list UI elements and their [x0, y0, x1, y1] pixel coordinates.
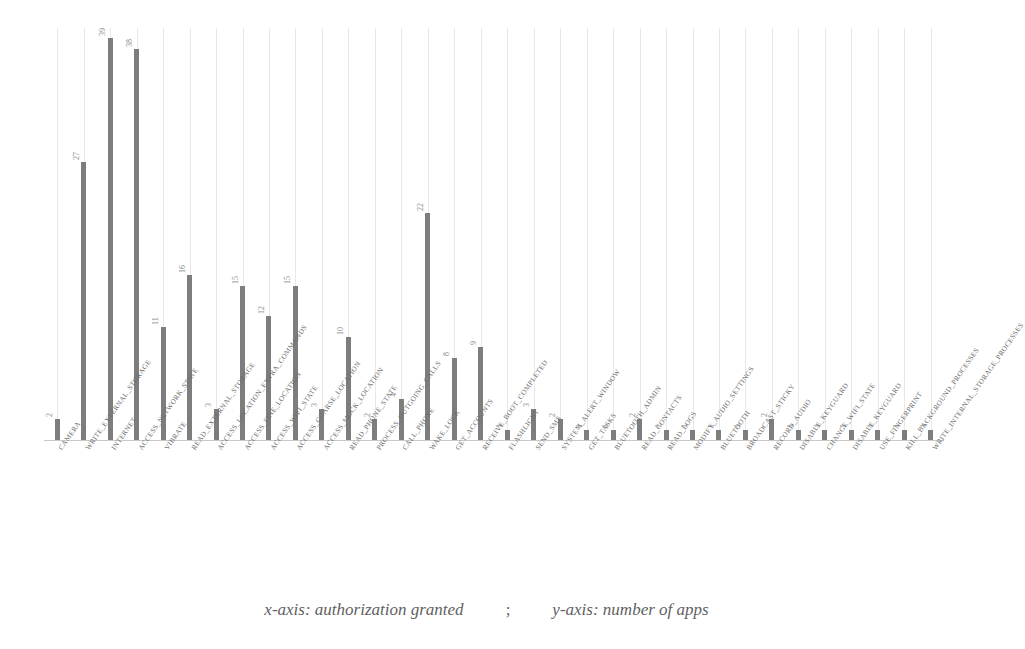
x-tick-slot: RECORD_AUDIO: [759, 443, 785, 593]
bar[interactable]: [690, 430, 695, 440]
bar[interactable]: [796, 430, 801, 440]
bar[interactable]: [81, 162, 86, 440]
bar-slot[interactable]: 2: [626, 28, 652, 440]
bar[interactable]: [452, 358, 457, 440]
caption-separator: ;: [464, 600, 553, 620]
bar-slot[interactable]: 1: [891, 28, 917, 440]
x-tick-slot: CAMERA: [44, 443, 70, 593]
x-tick-slot: GET_TASKS: [573, 443, 599, 593]
x-tick-slot: READ_PHONE_STATE: [335, 443, 361, 593]
bar[interactable]: [902, 430, 907, 440]
x-tick-slot: READ_LOGS: [653, 443, 679, 593]
bar-value-label: 39: [99, 28, 107, 36]
x-tick-slot: PROCESS_OUTGOING_CALLS: [362, 443, 388, 593]
caption-y-axis: y-axis: number of apps: [552, 600, 708, 619]
bar[interactable]: [664, 430, 669, 440]
x-tick-slot: WRITE_INTERNAL_STORAGE_PROCESSES: [917, 443, 943, 593]
caption-x-axis: x-axis: authorization granted: [264, 600, 463, 619]
bar[interactable]: [743, 430, 748, 440]
bar-value-label: 27: [73, 152, 81, 160]
x-tick-slot: ACCESS_COARSE_LOCATION: [282, 443, 308, 593]
bar[interactable]: [478, 347, 483, 440]
bar[interactable]: [875, 430, 880, 440]
x-tick-slot: ACCESS_LOCATION_EXTRA_COMMANDS: [203, 443, 229, 593]
bar-slot[interactable]: 39: [97, 28, 123, 440]
bar[interactable]: [822, 430, 827, 440]
bar[interactable]: [584, 430, 589, 440]
bar[interactable]: [928, 430, 933, 440]
bar-slot[interactable]: 1: [865, 28, 891, 440]
x-tick-slot: RECEIVE_BOOT_COMPLETED: [468, 443, 494, 593]
bar-value-label: 22: [417, 203, 425, 211]
x-tick-slot: BLUETOOTH: [706, 443, 732, 593]
x-tick-slot: DISABLE_KEYGUARD: [838, 443, 864, 593]
bar-value-label: 16: [179, 265, 187, 273]
x-tick-slot: READ_EXTERNAL_STORAGE: [176, 443, 202, 593]
x-tick-slot: CHANGE_WIFI_STATE: [812, 443, 838, 593]
bar-series: 2273938111631512153102422891321121111211…: [44, 28, 944, 440]
bar-slot[interactable]: 1: [838, 28, 864, 440]
bar-slot[interactable]: 1: [573, 28, 599, 440]
bar-value-label: 3: [205, 403, 213, 407]
x-tick-slot: VIBRATE: [150, 443, 176, 593]
x-tick-slot: ACCESS_WIFI_STATE: [256, 443, 282, 593]
bar-value-label: 38: [126, 39, 134, 47]
bar-value-label: 10: [337, 327, 345, 335]
bar-value-label: 15: [232, 276, 240, 284]
x-axis-tick-labels: CAMERAWRITE_EXTERNAL_STORAGEINTERNETACCE…: [44, 443, 944, 593]
bar-slot[interactable]: 3: [309, 28, 335, 440]
bar-value-label: 11: [152, 317, 160, 325]
bar-slot[interactable]: 11: [150, 28, 176, 440]
bar[interactable]: [611, 430, 616, 440]
bar-value-label: 3: [311, 403, 319, 407]
bar-slot[interactable]: 2: [759, 28, 785, 440]
bar-slot[interactable]: 1: [706, 28, 732, 440]
x-tick-slot: SEND_SMS: [520, 443, 546, 593]
x-tick-slot: BROADCAST_STICKY: [732, 443, 758, 593]
bar-slot[interactable]: 1: [679, 28, 705, 440]
bar-slot[interactable]: 1: [494, 28, 520, 440]
x-tick-slot: KILL_BACKGROUND_PROCESSES: [891, 443, 917, 593]
x-tick-slot: SYSTEM_ALERT_WINDOW: [547, 443, 573, 593]
bar-value-label: 3: [523, 403, 531, 407]
bar-value-label: 15: [284, 276, 292, 284]
figure-caption: x-axis: authorization granted;y-axis: nu…: [0, 600, 973, 620]
x-tick-slot: FLASHLIGHT: [494, 443, 520, 593]
bar-slot[interactable]: 1: [917, 28, 943, 440]
bar[interactable]: [187, 275, 192, 440]
bar-slot[interactable]: 2: [44, 28, 70, 440]
x-tick-slot: USE_FINGERPRINT: [865, 443, 891, 593]
plot-area: 2273938111631512153102422891321121111211…: [44, 28, 944, 440]
x-tick-slot: GET_ACCOUNTS: [441, 443, 467, 593]
bar-slot[interactable]: 4: [388, 28, 414, 440]
bar[interactable]: [849, 430, 854, 440]
bar-slot[interactable]: 8: [441, 28, 467, 440]
x-tick-slot: WAKE_LOCK: [415, 443, 441, 593]
bar-value-label: 2: [46, 413, 54, 417]
x-tick-slot: MODIFY_AUDIO_SETTINGS: [679, 443, 705, 593]
bar[interactable]: [108, 38, 113, 440]
x-tick-slot: ACCESS_MOCK_LOCATION: [309, 443, 335, 593]
bar-value-label: 8: [443, 352, 451, 356]
x-tick-slot: READ_CONTACTS: [626, 443, 652, 593]
bar[interactable]: [505, 430, 510, 440]
x-tick-slot: BLUETOOTH_ADMIN: [600, 443, 626, 593]
bar-slot[interactable]: 27: [70, 28, 96, 440]
bar-value-label: 12: [258, 306, 266, 314]
bar-value-label: 9: [470, 341, 478, 345]
bar[interactable]: [55, 419, 60, 440]
x-tick-slot: ACCESS_FINE_LOCATION: [229, 443, 255, 593]
bar-slot[interactable]: 2: [547, 28, 573, 440]
x-tick-slot: INTERNET: [97, 443, 123, 593]
bar[interactable]: [716, 430, 721, 440]
bar-slot[interactable]: 1: [812, 28, 838, 440]
bar-slot[interactable]: 3: [203, 28, 229, 440]
x-tick-slot: CALL_PHONE: [388, 443, 414, 593]
bar-slot[interactable]: 1: [785, 28, 811, 440]
x-tick-slot: ACCESS_NETWORK_STATE: [123, 443, 149, 593]
x-tick-slot: WRITE_EXTERNAL_STORAGE: [70, 443, 96, 593]
bar-slot[interactable]: 1: [653, 28, 679, 440]
bar-slot[interactable]: 9: [468, 28, 494, 440]
x-tick-slot: DISABLE_KEYGUARD: [785, 443, 811, 593]
